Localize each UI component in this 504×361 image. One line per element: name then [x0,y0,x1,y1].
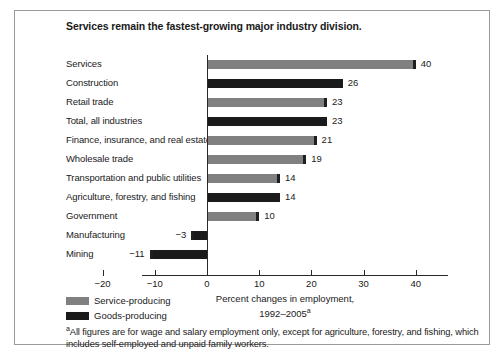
x-axis-tick [416,270,417,276]
bar-service [207,212,259,221]
bar-goods [207,117,327,126]
x-axis-tick-label: 10 [239,278,279,289]
bar-value-label: −11 [127,248,145,260]
legend-item: Goods-producing [66,309,171,322]
x-axis-tick-label: 30 [344,278,384,289]
chart-footnote: aAll figures are for wage and salary emp… [66,323,486,351]
bar-value-label: 23 [332,96,343,108]
bar-service [207,155,306,164]
bar-track: −11 [66,245,481,264]
bar-value-label: −3 [168,229,186,241]
bar-value-label: 40 [421,58,432,70]
legend-label: Service-producing [94,295,171,306]
x-axis-title-footnote-marker: a [307,307,311,314]
chart-row: Services40 [66,55,481,74]
bar-service [207,98,327,107]
chart-plot-area: Services40Construction26Retail trade23To… [66,55,481,273]
bar-service [207,136,317,145]
legend-item: Service-producing [66,294,171,307]
chart-row: Mining−11 [66,245,481,264]
chart-title: Services remain the fastest-growing majo… [66,20,366,33]
bar-value-label: 26 [348,77,359,89]
bar-track: 23 [66,112,481,131]
bar-service [207,60,416,69]
x-axis-title: Percent changes in employment, 1992–2005… [195,293,375,319]
bar-goods [207,193,280,202]
x-axis-tick-label: 0 [187,278,227,289]
legend-label: Goods-producing [94,310,167,321]
zero-axis-line [207,55,208,276]
bar-value-label: 21 [322,134,333,146]
bar-goods [191,231,207,240]
chart-row: Agriculture, forestry, and fishing14 [66,188,481,207]
bar-track: 23 [66,93,481,112]
bar-track: 19 [66,150,481,169]
x-axis-tick [364,270,365,276]
chart-row: Total, all industries23 [66,112,481,131]
footnote-text: All figures are for wage and salary empl… [66,327,479,349]
bar-service [207,174,280,183]
bar-value-label: 10 [264,210,275,222]
x-axis-tick-label: −20 [83,278,123,289]
bar-track: 40 [66,55,481,74]
bar-value-label: 14 [285,191,296,203]
bar-track: 26 [66,74,481,93]
x-axis-tick [311,270,312,276]
chart-row: Retail trade23 [66,93,481,112]
x-axis-tick [259,270,260,276]
legend-swatch-goods [66,312,89,320]
bar-value-label: 14 [285,172,296,184]
bar-value-label: 23 [332,115,343,127]
bar-track: −3 [66,226,481,245]
bar-track: 10 [66,207,481,226]
x-axis-tick [155,270,156,276]
x-axis-tick-label: 20 [291,278,331,289]
bar-goods [150,250,207,259]
chart-row: Government10 [66,207,481,226]
bar-goods [207,79,343,88]
bar-track: 14 [66,169,481,188]
x-axis-title-line2: 1992–2005 [259,308,307,319]
x-axis-line [142,275,448,276]
x-axis-tick [207,270,208,276]
chart-row: Wholesale trade19 [66,150,481,169]
chart-row: Manufacturing−3 [66,226,481,245]
chart-row: Transportation and public utilities14 [66,169,481,188]
bar-track: 21 [66,131,481,150]
chart-legend: Service-producingGoods-producing [66,294,171,324]
x-axis-tick-label: −10 [135,278,175,289]
x-axis-tick-label: 40 [396,278,436,289]
x-axis-title-line1: Percent changes in employment, [216,293,354,304]
chart-frame: Services remain the fastest-growing majo… [14,10,490,345]
chart-row: Construction26 [66,74,481,93]
chart-row: Finance, insurance, and real estate21 [66,131,481,150]
bar-value-label: 19 [311,153,322,165]
bar-track: 14 [66,188,481,207]
legend-swatch-service [66,297,89,305]
x-axis-tick [103,270,104,276]
